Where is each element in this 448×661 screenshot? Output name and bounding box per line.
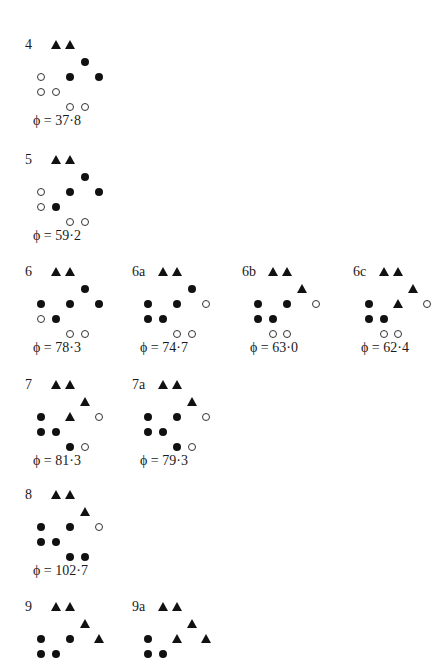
- open-circle-icon: [380, 330, 388, 338]
- configuration-label: 7: [25, 377, 32, 393]
- triangle-marker-icon: [65, 490, 75, 499]
- filled-circle-icon: [66, 553, 74, 561]
- configuration-9a: 9a: [132, 607, 242, 661]
- triangle-marker-icon: [187, 619, 197, 628]
- filled-circle-icon: [254, 300, 262, 308]
- configuration-6: 6ϕ = 78·3: [25, 272, 135, 372]
- phi-value: ϕ = 74·7: [140, 340, 188, 356]
- filled-circle-icon: [95, 300, 103, 308]
- open-circle-icon: [95, 413, 103, 421]
- open-circle-icon: [188, 330, 196, 338]
- phi-value: ϕ = 62·4: [361, 340, 409, 356]
- configuration-label: 6c: [353, 264, 366, 280]
- configuration-6b: 6bϕ = 63·0: [242, 272, 352, 372]
- filled-circle-icon: [173, 443, 181, 451]
- filled-circle-icon: [52, 538, 60, 546]
- triangle-marker-icon: [80, 397, 90, 406]
- open-circle-icon: [202, 413, 210, 421]
- triangle-marker-icon: [187, 397, 197, 406]
- open-circle-icon: [394, 330, 402, 338]
- triangle-marker-icon: [282, 267, 292, 276]
- triangle-marker-icon: [65, 602, 75, 611]
- filled-circle-icon: [66, 300, 74, 308]
- filled-circle-icon: [37, 428, 45, 436]
- filled-circle-icon: [37, 650, 45, 658]
- open-circle-icon: [81, 443, 89, 451]
- filled-circle-icon: [144, 300, 152, 308]
- configuration-label: 9a: [132, 599, 145, 615]
- filled-circle-icon: [81, 553, 89, 561]
- filled-circle-icon: [81, 285, 89, 293]
- triangle-marker-icon: [94, 634, 104, 643]
- filled-circle-icon: [81, 173, 89, 181]
- triangle-marker-icon: [408, 284, 418, 293]
- filled-circle-icon: [37, 413, 45, 421]
- filled-circle-icon: [37, 635, 45, 643]
- open-circle-icon: [173, 330, 181, 338]
- triangle-marker-icon: [51, 602, 61, 611]
- open-circle-icon: [66, 218, 74, 226]
- filled-circle-icon: [269, 315, 277, 323]
- configuration-7: 7ϕ = 81·3: [25, 385, 135, 485]
- triangle-marker-icon: [297, 284, 307, 293]
- filled-circle-icon: [159, 315, 167, 323]
- open-circle-icon: [202, 300, 210, 308]
- configuration-label: 8: [25, 487, 32, 503]
- filled-circle-icon: [37, 300, 45, 308]
- filled-circle-icon: [52, 315, 60, 323]
- triangle-marker-icon: [65, 267, 75, 276]
- open-circle-icon: [312, 300, 320, 308]
- filled-circle-icon: [66, 188, 74, 196]
- configuration-label: 6a: [132, 264, 145, 280]
- filled-circle-icon: [81, 58, 89, 66]
- filled-circle-icon: [52, 203, 60, 211]
- configuration-label: 6: [25, 264, 32, 280]
- filled-circle-icon: [144, 650, 152, 658]
- phi-value: ϕ = 102·7: [33, 563, 88, 579]
- filled-circle-icon: [144, 635, 152, 643]
- triangle-marker-icon: [158, 380, 168, 389]
- triangle-marker-icon: [51, 380, 61, 389]
- triangle-marker-icon: [393, 267, 403, 276]
- filled-circle-icon: [52, 428, 60, 436]
- filled-circle-icon: [159, 650, 167, 658]
- triangle-marker-icon: [268, 267, 278, 276]
- open-circle-icon: [423, 300, 431, 308]
- configuration-5: 5ϕ = 59·2: [25, 160, 135, 260]
- configuration-6a: 6aϕ = 74·7: [132, 272, 242, 372]
- filled-circle-icon: [173, 413, 181, 421]
- phi-value: ϕ = 79·3: [140, 453, 188, 469]
- open-circle-icon: [37, 203, 45, 211]
- open-circle-icon: [81, 103, 89, 111]
- filled-circle-icon: [37, 538, 45, 546]
- filled-circle-icon: [173, 300, 181, 308]
- configuration-4: 4ϕ = 37·8: [25, 45, 135, 145]
- filled-circle-icon: [37, 523, 45, 531]
- filled-circle-icon: [188, 285, 196, 293]
- filled-circle-icon: [52, 650, 60, 658]
- open-circle-icon: [95, 523, 103, 531]
- open-circle-icon: [37, 73, 45, 81]
- triangle-marker-icon: [172, 380, 182, 389]
- filled-circle-icon: [66, 443, 74, 451]
- filled-circle-icon: [283, 300, 291, 308]
- triangle-marker-icon: [51, 490, 61, 499]
- open-circle-icon: [52, 88, 60, 96]
- open-circle-icon: [283, 330, 291, 338]
- triangle-marker-icon: [51, 267, 61, 276]
- filled-circle-icon: [66, 523, 74, 531]
- filled-circle-icon: [66, 73, 74, 81]
- open-circle-icon: [81, 218, 89, 226]
- triangle-marker-icon: [80, 507, 90, 516]
- triangle-marker-icon: [201, 634, 211, 643]
- filled-circle-icon: [144, 428, 152, 436]
- open-circle-icon: [66, 103, 74, 111]
- triangle-marker-icon: [65, 380, 75, 389]
- filled-circle-icon: [159, 428, 167, 436]
- triangle-marker-icon: [80, 619, 90, 628]
- open-circle-icon: [188, 443, 196, 451]
- configuration-label: 7a: [132, 377, 145, 393]
- triangle-marker-icon: [158, 602, 168, 611]
- open-circle-icon: [269, 330, 277, 338]
- triangle-marker-icon: [65, 412, 75, 421]
